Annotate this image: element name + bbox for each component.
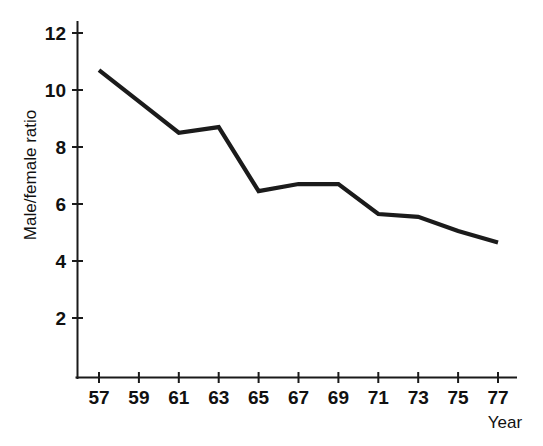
x-tick-label-group: 5759616365676971737577 [88,387,508,408]
y-tick-label: 8 [55,137,66,158]
x-tick-label: 77 [487,387,508,408]
y-tick-label: 2 [55,308,66,329]
chart-figure: 24681012 5759616365676971737577 Male/fem… [0,0,543,446]
x-tick-label: 75 [448,387,470,408]
y-axis: 24681012 [45,22,83,378]
y-axis-title: Male/female ratio [21,110,40,240]
x-tick-label: 65 [248,387,270,408]
x-axis-title: Year [488,413,523,432]
x-axis: 5759616365676971737577 [77,372,517,408]
x-tick-label: 71 [368,387,390,408]
x-tick-label: 69 [328,387,349,408]
x-tick-label: 67 [288,387,309,408]
y-tick-label: 10 [45,80,66,101]
y-tick-label: 6 [55,194,66,215]
line-chart-svg: 24681012 5759616365676971737577 Male/fem… [0,0,543,446]
y-tick-label: 12 [45,23,66,44]
y-tick-label-group: 24681012 [45,23,67,329]
x-tick-label: 59 [128,387,149,408]
x-tick-label: 63 [208,387,229,408]
data-series-line [99,70,498,242]
x-tick-label: 61 [168,387,190,408]
x-tick-label: 73 [408,387,429,408]
x-tick-label: 57 [88,387,109,408]
y-tick-label: 4 [55,251,66,272]
